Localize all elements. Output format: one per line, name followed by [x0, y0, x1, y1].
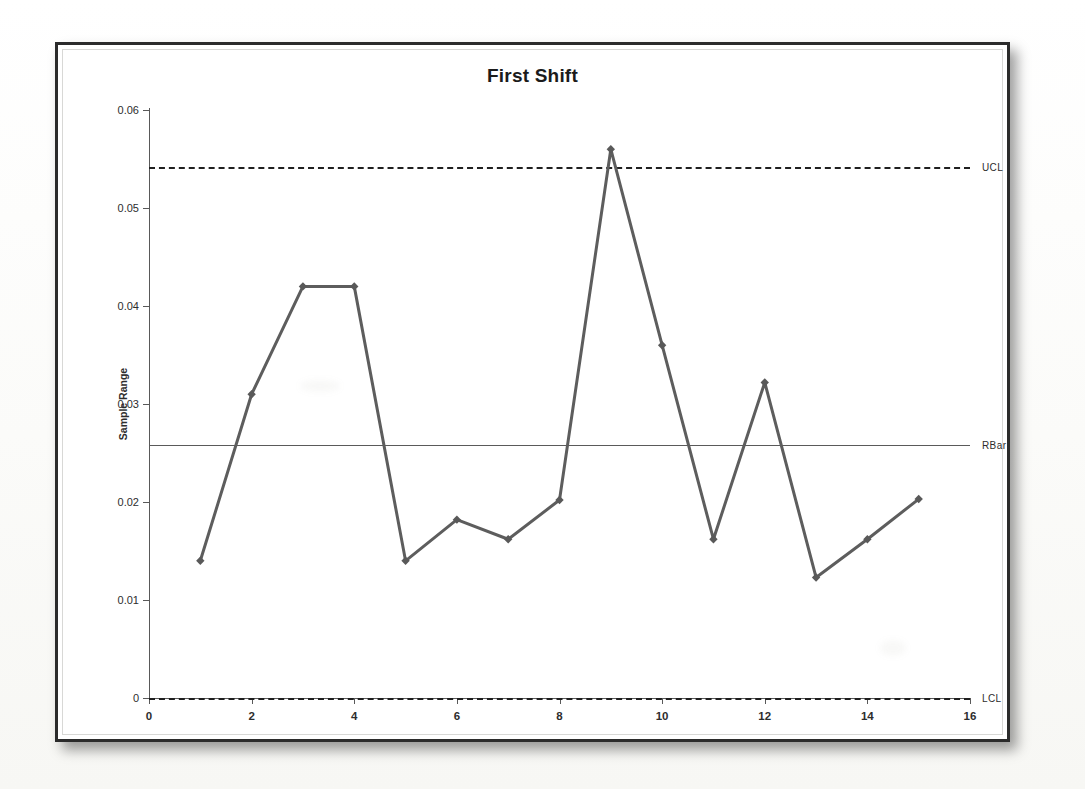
- x-tick-label: 8: [556, 710, 562, 722]
- data-point-marker: [196, 557, 204, 565]
- y-tick-label: 0.06: [118, 104, 139, 116]
- ucl-label: UCL: [982, 161, 1003, 172]
- chart-title: First Shift: [58, 65, 1007, 87]
- x-tick-label: 6: [454, 710, 460, 722]
- data-point-marker: [607, 145, 615, 153]
- y-tick-label: 0.01: [118, 594, 139, 606]
- x-tick-label: 14: [861, 710, 874, 722]
- lcl-line: [149, 698, 970, 700]
- series-markers: [196, 145, 923, 582]
- sample-range-series: [149, 110, 970, 698]
- y-tick-label: 0.04: [118, 300, 139, 312]
- y-tick-label: 0.02: [118, 496, 139, 508]
- x-tick-label: 16: [964, 710, 977, 722]
- plot-area: Sample Range 00.010.020.030.040.050.06 0…: [149, 110, 970, 698]
- y-tick-label: 0: [133, 692, 139, 704]
- series-line: [200, 149, 918, 577]
- data-point-marker: [761, 378, 769, 386]
- lcl-label: LCL: [982, 693, 1002, 704]
- y-tick-label: 0.05: [118, 202, 139, 214]
- y-tick-label: 0.03: [118, 398, 139, 410]
- data-point-marker: [709, 535, 717, 543]
- x-tick: [970, 698, 971, 704]
- x-tick-label: 4: [351, 710, 357, 722]
- data-point-marker: [350, 282, 358, 290]
- x-tick-label: 10: [656, 710, 669, 722]
- chart-frame: First Shift Sample Range 00.010.020.030.…: [55, 42, 1010, 742]
- x-tick-label: 2: [248, 710, 254, 722]
- x-tick-label: 0: [146, 710, 152, 722]
- data-point-marker: [658, 341, 666, 349]
- x-tick-label: 12: [758, 710, 771, 722]
- rbar-label: RBar: [982, 440, 1006, 451]
